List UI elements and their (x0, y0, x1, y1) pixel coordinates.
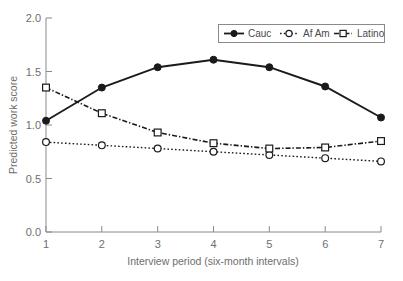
series-line-cauc (46, 60, 381, 121)
legend-label-latino: Latino (357, 28, 385, 39)
y-tick-label-0: 0.0 (26, 226, 41, 238)
data-point-filled-circle (98, 84, 105, 91)
data-point-filled-circle (322, 83, 329, 90)
data-point-open-square (43, 84, 50, 91)
data-point-open-square (378, 138, 385, 145)
x-tick-label-0: 1 (43, 238, 49, 250)
legend-marker-open-circle-icon (286, 30, 292, 36)
x-tick-label-4: 5 (266, 238, 272, 250)
data-point-open-circle (210, 148, 217, 155)
data-point-open-circle (154, 145, 161, 152)
x-tick-label-6: 7 (378, 238, 384, 250)
series-markers-latino (43, 84, 385, 152)
data-point-filled-circle (210, 56, 217, 63)
y-tick-label-2: 1.0 (26, 119, 41, 131)
data-point-open-circle (266, 152, 273, 159)
data-point-open-square (98, 110, 105, 117)
y-axis-title: Predicted work score (7, 76, 19, 174)
legend: Cauc Af Am Latino (219, 25, 385, 43)
legend-marker-filled-circle-icon (231, 30, 237, 36)
data-point-open-circle (98, 142, 105, 149)
data-point-open-square (154, 129, 161, 136)
data-point-open-square (266, 145, 273, 152)
data-point-open-circle (378, 158, 385, 165)
legend-label-cauc: Cauc (248, 28, 271, 39)
data-point-open-square (322, 144, 329, 151)
data-point-open-square (210, 140, 217, 147)
y-tick-label-4: 2.0 (26, 12, 41, 24)
x-tick-label-1: 2 (99, 238, 105, 250)
data-point-filled-circle (154, 64, 161, 71)
figure-container: 0.0 0.5 1.0 1.5 2.0 1 2 3 4 5 6 7 Interv… (0, 0, 403, 281)
data-point-filled-circle (43, 117, 50, 124)
y-tick-label-3: 1.5 (26, 66, 41, 78)
x-tick-label-2: 3 (155, 238, 161, 250)
legend-label-af-am: Af Am (303, 28, 330, 39)
data-point-open-circle (43, 139, 50, 146)
data-point-filled-circle (266, 64, 273, 71)
x-tick-label-5: 6 (322, 238, 328, 250)
x-axis-title: Interview period (six-month intervals) (127, 255, 299, 267)
line-chart: 0.0 0.5 1.0 1.5 2.0 1 2 3 4 5 6 7 Interv… (0, 0, 403, 281)
y-tick-label-1: 0.5 (26, 173, 41, 185)
legend-marker-open-square-icon (340, 30, 346, 36)
x-tick-label-3: 4 (210, 238, 216, 250)
data-point-filled-circle (378, 114, 385, 121)
data-point-open-circle (322, 155, 329, 162)
